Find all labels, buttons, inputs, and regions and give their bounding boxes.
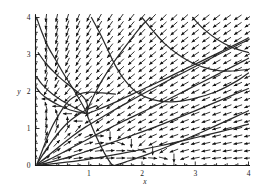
y-tick-label: 0 [27, 161, 31, 170]
x-tick-label: 3 [193, 169, 197, 178]
plot-canvas: 123401234 x y [0, 0, 268, 194]
y-tick-label: 4 [27, 13, 31, 22]
y-axis-title: y [16, 87, 21, 96]
y-tick-label: 3 [27, 50, 31, 59]
x-axis-title: x [142, 177, 147, 186]
phase-portrait-figure: 123401234 x y [0, 0, 268, 194]
x-tick-label: 4 [247, 169, 251, 178]
x-tick-label: 1 [87, 169, 91, 178]
y-tick-label: 2 [27, 87, 31, 96]
y-tick-label: 1 [27, 124, 31, 133]
